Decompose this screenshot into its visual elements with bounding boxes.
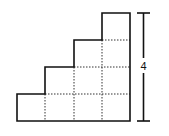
staircase-diagram: 4 [0,0,169,136]
dimension-label: 4 [140,60,146,72]
interior-grid [45,40,130,121]
height-dimension: 4 [137,13,150,121]
